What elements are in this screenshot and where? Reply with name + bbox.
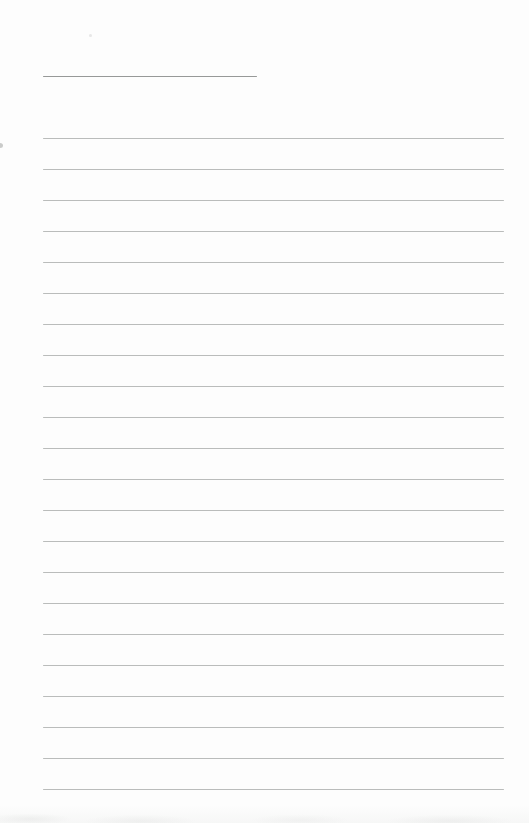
ruled-line bbox=[43, 355, 504, 356]
lined-paper-page bbox=[0, 0, 529, 823]
ruled-line bbox=[43, 417, 504, 418]
paper-speck bbox=[0, 143, 3, 148]
ruled-line bbox=[43, 727, 504, 728]
ruled-line bbox=[43, 789, 504, 790]
paper-speck bbox=[89, 34, 92, 37]
ruled-line bbox=[43, 448, 504, 449]
ruled-line bbox=[43, 665, 504, 666]
ruled-line bbox=[43, 293, 504, 294]
ruled-line bbox=[43, 200, 504, 201]
ruled-line bbox=[43, 541, 504, 542]
title-writing-line bbox=[43, 76, 257, 77]
ruled-line bbox=[43, 386, 504, 387]
page-bottom-shadow bbox=[0, 805, 529, 823]
ruled-line bbox=[43, 696, 504, 697]
ruled-line bbox=[43, 324, 504, 325]
ruled-line bbox=[43, 138, 504, 139]
ruled-line bbox=[43, 510, 504, 511]
ruled-line bbox=[43, 603, 504, 604]
ruled-line bbox=[43, 758, 504, 759]
ruled-line bbox=[43, 572, 504, 573]
ruled-line bbox=[43, 634, 504, 635]
ruled-line bbox=[43, 262, 504, 263]
ruled-line bbox=[43, 169, 504, 170]
ruled-line bbox=[43, 479, 504, 480]
ruled-line bbox=[43, 231, 504, 232]
